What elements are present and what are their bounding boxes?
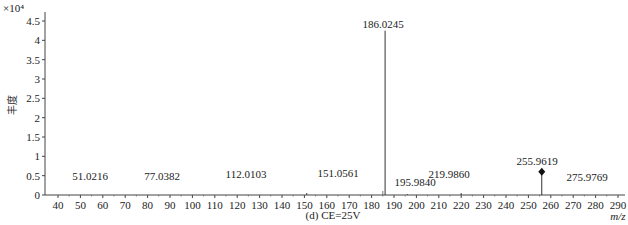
peak-label: 151.0561 xyxy=(317,167,358,179)
x-tick-label: 50 xyxy=(75,199,87,211)
y-multiplier: ×10⁴ xyxy=(3,2,24,14)
x-tick-label: 220 xyxy=(453,199,470,211)
x-tick-label: 280 xyxy=(587,199,604,211)
x-tick-label: 250 xyxy=(520,199,537,211)
x-tick-label: 200 xyxy=(408,199,425,211)
x-tick-label: 100 xyxy=(184,199,201,211)
x-axis-label: m/z xyxy=(610,210,626,222)
chart-caption: (d) CE=25V xyxy=(306,209,361,222)
x-tick-label: 210 xyxy=(431,199,448,211)
x-tick-label: 70 xyxy=(120,199,132,211)
peak-label: 51.0216 xyxy=(72,170,108,182)
y-tick-label: 2 xyxy=(35,112,41,124)
x-tick-label: 40 xyxy=(53,199,65,211)
x-tick-label: 140 xyxy=(274,199,291,211)
x-tick-label: 130 xyxy=(251,199,268,211)
x-tick-label: 230 xyxy=(475,199,492,211)
y-tick-label: 3.5 xyxy=(26,54,40,66)
x-tick-label: 190 xyxy=(386,199,403,211)
x-tick-label: 90 xyxy=(165,199,177,211)
peak-label: 275.9769 xyxy=(566,171,608,183)
x-tick-label: 120 xyxy=(229,199,246,211)
y-tick-label: 4.5 xyxy=(26,15,40,27)
x-tick-label: 260 xyxy=(543,199,560,211)
y-tick-label: 0.5 xyxy=(26,170,40,182)
y-tick-label: 2.5 xyxy=(26,92,40,104)
precursor-marker-icon xyxy=(538,168,545,176)
x-tick-label: 110 xyxy=(207,199,224,211)
y-tick-label: 4 xyxy=(35,34,41,46)
y-tick-label: 1.5 xyxy=(26,131,40,143)
peak-label: 186.0245 xyxy=(362,18,404,30)
x-tick-label: 80 xyxy=(142,199,154,211)
peak-label: 255.9619 xyxy=(516,155,558,167)
y-tick-label: 3 xyxy=(35,73,41,85)
x-tick-label: 180 xyxy=(363,199,380,211)
y-tick-label: 1 xyxy=(35,150,41,162)
y-axis-label: 丰度 xyxy=(6,95,18,115)
peak-label: 77.0382 xyxy=(144,170,180,182)
x-tick-label: 240 xyxy=(498,199,515,211)
peak-label: 219.9860 xyxy=(428,168,470,180)
y-tick-label: 0 xyxy=(35,189,41,201)
x-tick-label: 270 xyxy=(565,199,582,211)
x-tick-label: 60 xyxy=(97,199,109,211)
mass-spectrum-chart: 00.511.522.533.544.5×10⁴丰度40506070809010… xyxy=(0,0,628,225)
peak-label: 112.0103 xyxy=(226,168,267,180)
